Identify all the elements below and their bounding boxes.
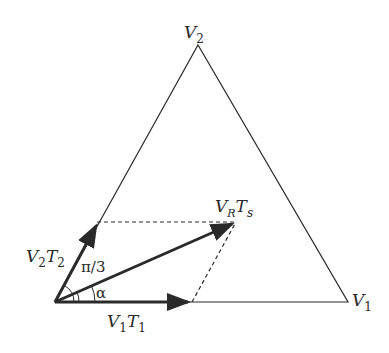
vector-v2t2-label: V2T2 bbox=[26, 246, 65, 270]
angle-arc-alpha bbox=[92, 286, 95, 302]
angle-arc-pi3 bbox=[65, 286, 75, 303]
vertex-v1-label: V1 bbox=[352, 290, 372, 314]
vector-vrts-label: VRTs bbox=[215, 196, 253, 220]
angle-alpha-label: α bbox=[96, 284, 106, 302]
vector-v1t1-label: V1T1 bbox=[107, 311, 146, 335]
space-vector-diagram: V2 V1 V2T2 V1T1 VRTs π/3 α bbox=[0, 0, 389, 353]
dashed-projection-right bbox=[192, 222, 236, 302]
angle-pi3-label: π/3 bbox=[81, 258, 105, 276]
vertex-v2-label: V2 bbox=[184, 22, 204, 46]
